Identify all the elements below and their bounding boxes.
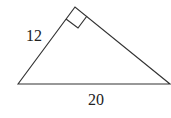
leg-label: 12: [26, 28, 42, 44]
right-angle-marker: [66, 16, 87, 28]
triangle: [18, 7, 170, 84]
hypotenuse-label: 20: [88, 92, 104, 108]
triangle-diagram: [0, 0, 171, 118]
